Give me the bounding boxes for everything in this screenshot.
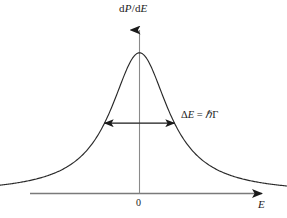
- origin-tick-label: 0: [136, 198, 141, 208]
- fwhm-annotation-label: ΔE = ℏΓ: [181, 110, 219, 121]
- equals-symbol: =: [194, 109, 205, 120]
- delta-symbol: Δ: [181, 109, 188, 120]
- lorentzian-curve: [0, 53, 287, 190]
- plot-canvas: [0, 0, 287, 218]
- lorentzian-lineshape-figure: dP/dE 0 E ΔE = ℏΓ: [0, 0, 287, 218]
- y-axis-label-p: P: [125, 2, 132, 14]
- x-axis-label: E: [258, 199, 265, 210]
- gamma-symbol: Γ: [212, 109, 219, 120]
- y-axis-label-e: E: [141, 2, 148, 14]
- y-axis-label-slash-d: /d: [132, 2, 141, 14]
- y-axis-label: dP/dE: [119, 3, 148, 14]
